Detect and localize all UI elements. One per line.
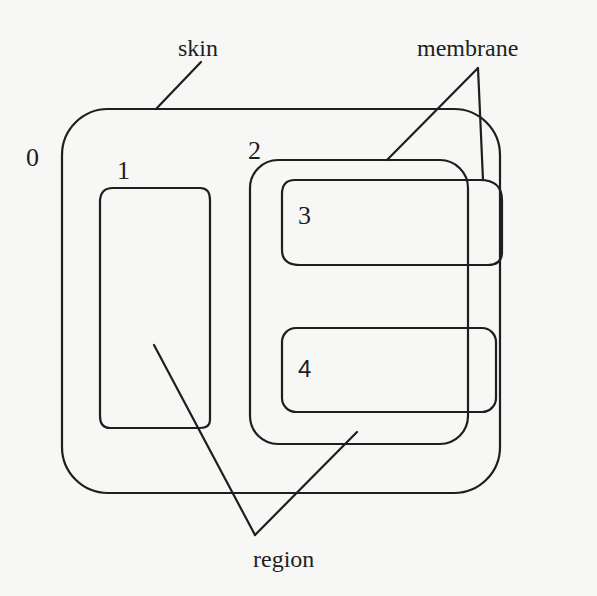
region-1-label: 1	[117, 158, 130, 184]
skin-label: skin	[178, 36, 218, 60]
membrane-label: membrane	[417, 36, 518, 60]
region-4-label: 4	[298, 357, 311, 381]
region-pointer-line-1	[154, 345, 255, 535]
region-label: region	[253, 547, 314, 571]
diagram-shapes	[0, 0, 597, 596]
region-pointer-line-2	[255, 432, 357, 535]
region-0-label: 0	[26, 145, 39, 171]
skin-pointer-line	[156, 62, 201, 109]
region-3-label: 3	[298, 203, 311, 229]
diagram-canvas: skin membrane region 0 1 2 3 4	[0, 0, 597, 596]
membrane-pointer-line-1	[387, 68, 478, 160]
region-1-boundary	[100, 188, 210, 428]
region-4-boundary	[282, 328, 496, 412]
region-2-label: 2	[248, 138, 261, 164]
membrane-pointer-line-2	[478, 68, 483, 180]
